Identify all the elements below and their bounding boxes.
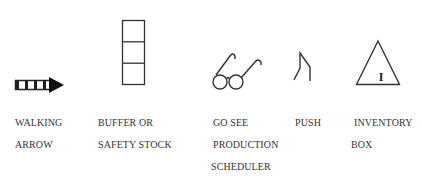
walking-arrow-label-line-1: WALKING — [15, 117, 62, 129]
go-see-label-line-3: SCHEDULER — [211, 161, 271, 173]
buffer-label-line-1: BUFFER OR — [98, 117, 153, 129]
walking-arrow-label-line-2: ARROW — [15, 139, 53, 151]
inventory-triangle-icon: I — [352, 38, 404, 90]
eyeglasses-icon — [210, 50, 270, 94]
go-see-label-line-1: GO SEE — [213, 117, 248, 129]
push-label: PUSH — [295, 117, 321, 129]
go-see-label-line-2: PRODUCTION — [213, 139, 278, 151]
push-icon — [290, 50, 320, 86]
buffer-stack-icon — [120, 18, 148, 88]
inventory-label-line-2: BOX — [351, 139, 372, 151]
buffer-label-line-2: SAFETY STOCK — [98, 139, 172, 151]
inventory-label-line-1: INVENTORY — [354, 117, 413, 129]
inventory-i-mark: I — [379, 70, 384, 84]
walking-arrow-icon — [12, 74, 68, 96]
